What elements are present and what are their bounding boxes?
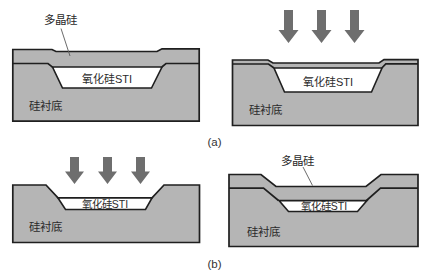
substrate-label: 硅衬底 xyxy=(29,220,63,233)
sti-process-figure: 多晶硅 氧化硅STI 硅衬底 氧化硅STI 硅衬底 (a) xyxy=(0,0,431,276)
down-arrow-icon xyxy=(312,10,332,43)
oxide-label: 氧化硅STI xyxy=(303,75,353,88)
down-arrow-icon xyxy=(345,10,365,43)
substrate-label: 硅衬底 xyxy=(249,103,283,116)
down-arrow-icon xyxy=(279,10,299,43)
poly-annotation: 多晶硅 xyxy=(281,154,315,167)
caption-b: (b) xyxy=(207,258,221,270)
panel-a1: 多晶硅 氧化硅STI 硅衬底 xyxy=(13,13,199,121)
caption-a: (a) xyxy=(207,136,221,148)
down-arrow-icon xyxy=(65,157,84,184)
process-arrows xyxy=(65,157,150,184)
substrate-label: 硅衬底 xyxy=(29,99,63,112)
panel-b2: 多晶硅 氧化硅STI 硅衬底 xyxy=(229,154,418,247)
oxide-label: 氧化硅STI xyxy=(82,198,128,210)
oxide-label: 氧化硅STI xyxy=(82,72,132,85)
oxide-label: 氧化硅STI xyxy=(301,200,347,212)
figure-canvas: 多晶硅 氧化硅STI 硅衬底 氧化硅STI 硅衬底 (a) xyxy=(0,0,431,276)
process-arrows xyxy=(279,10,365,43)
substrate-label: 硅衬底 xyxy=(247,225,281,238)
panel-a2: 氧化硅STI 硅衬底 xyxy=(233,10,419,126)
panel-b1: 氧化硅STI 硅衬底 xyxy=(13,157,200,243)
down-arrow-icon xyxy=(98,157,117,184)
down-arrow-icon xyxy=(131,157,150,184)
substrate-body xyxy=(13,185,200,243)
poly-annotation: 多晶硅 xyxy=(44,13,78,26)
poly-leader-line xyxy=(303,167,313,186)
